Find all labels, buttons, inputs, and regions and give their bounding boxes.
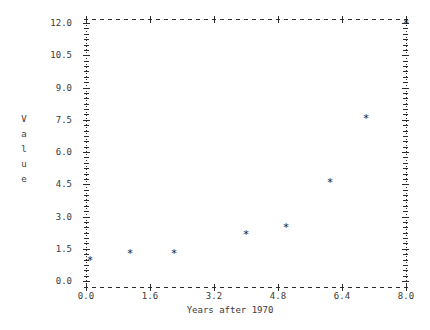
y-axis-minor-tick <box>84 211 89 212</box>
y-axis-major-tick <box>83 88 90 89</box>
y-axis-minor-tick <box>403 243 408 244</box>
y-axis-minor-tick <box>84 125 89 126</box>
y-axis-minor-tick <box>84 141 89 142</box>
y-axis-major-tick <box>83 281 90 282</box>
y-axis-minor-tick <box>84 179 89 180</box>
y-axis-minor-tick <box>403 260 408 261</box>
x-tick-label: 4.8 <box>258 292 298 301</box>
y-axis-minor-tick <box>84 163 89 164</box>
x-axis-major-tick <box>406 284 407 291</box>
y-axis-minor-tick <box>84 238 89 239</box>
y-axis-minor-tick <box>84 109 89 110</box>
data-point: * <box>127 248 134 259</box>
y-axis-minor-tick <box>403 195 408 196</box>
y-axis-minor-tick <box>84 114 89 115</box>
y-axis-minor-tick <box>403 174 408 175</box>
y-tick-label: 7.5 <box>30 115 72 124</box>
top-border-dashed <box>84 19 408 20</box>
y-tick-label: 1.5 <box>30 244 72 253</box>
y-axis-minor-tick <box>84 206 89 207</box>
y-axis-minor-tick <box>403 163 408 164</box>
y-axis-minor-tick <box>403 179 408 180</box>
y-axis-major-tick <box>83 217 90 218</box>
x-axis-major-tick <box>214 284 215 291</box>
x-axis-major-tick <box>214 16 215 23</box>
y-axis-minor-tick <box>84 45 89 46</box>
y-axis-minor-tick <box>84 227 89 228</box>
y-axis-minor-tick <box>403 238 408 239</box>
y-tick-label: 0.0 <box>30 277 72 286</box>
x-tick-label: 6.4 <box>322 292 362 301</box>
y-axis-minor-tick <box>403 45 408 46</box>
x-axis-major-tick <box>278 16 279 23</box>
y-axis-minor-tick <box>84 195 89 196</box>
y-axis-minor-tick <box>84 104 89 105</box>
y-axis-major-tick <box>402 184 409 185</box>
y-axis-minor-tick <box>84 200 89 201</box>
y-axis-minor-tick <box>84 190 89 191</box>
data-point: * <box>87 254 94 265</box>
y-axis-major-tick <box>402 120 409 121</box>
y-axis-minor-tick <box>403 206 408 207</box>
y-axis-major-tick <box>83 152 90 153</box>
y-axis-minor-tick <box>403 200 408 201</box>
y-axis-minor-tick <box>403 71 408 72</box>
y-tick-label: 3.0 <box>30 212 72 221</box>
y-axis-minor-tick <box>403 104 408 105</box>
x-axis-major-tick <box>342 284 343 291</box>
y-axis-major-tick <box>83 249 90 250</box>
y-tick-label: 4.5 <box>30 180 72 189</box>
y-axis-minor-tick <box>403 211 408 212</box>
y-axis-minor-tick <box>403 147 408 148</box>
y-axis-minor-tick <box>84 174 89 175</box>
y-axis-major-tick <box>402 88 409 89</box>
y-axis-minor-tick <box>84 93 89 94</box>
y-axis-title-char: a <box>16 127 32 142</box>
data-point: * <box>283 222 290 233</box>
data-point: * <box>363 112 370 123</box>
y-axis-minor-tick <box>84 28 89 29</box>
y-axis-minor-tick <box>403 93 408 94</box>
x-axis-major-tick <box>86 16 87 23</box>
x-axis-title: Years after 1970 <box>0 305 430 315</box>
y-axis-major-tick <box>83 184 90 185</box>
data-point: * <box>327 177 334 188</box>
y-axis-minor-tick <box>84 168 89 169</box>
y-axis-major-tick <box>402 55 409 56</box>
x-axis-major-tick <box>150 16 151 23</box>
y-axis-minor-tick <box>403 233 408 234</box>
y-axis-minor-tick <box>403 114 408 115</box>
y-axis-major-tick <box>83 120 90 121</box>
y-axis-minor-tick <box>403 157 408 158</box>
y-axis-major-tick <box>83 23 90 24</box>
y-axis-minor-tick <box>403 222 408 223</box>
y-axis-minor-tick <box>84 270 89 271</box>
y-axis-minor-tick <box>84 71 89 72</box>
y-axis-minor-tick <box>403 265 408 266</box>
y-axis-minor-tick <box>84 98 89 99</box>
y-axis-minor-tick <box>403 254 408 255</box>
y-axis-minor-tick <box>403 66 408 67</box>
y-axis-minor-tick <box>403 270 408 271</box>
y-axis-minor-tick <box>403 34 408 35</box>
y-axis-minor-tick <box>403 168 408 169</box>
y-tick-label: 9.0 <box>30 83 72 92</box>
y-axis-minor-tick <box>403 136 408 137</box>
y-axis-minor-tick <box>84 157 89 158</box>
y-axis-minor-tick <box>84 82 89 83</box>
y-axis-major-tick <box>83 55 90 56</box>
y-axis-minor-tick <box>84 147 89 148</box>
data-point: * <box>243 228 250 239</box>
x-axis-major-tick <box>86 284 87 291</box>
y-axis-minor-tick <box>403 109 408 110</box>
y-axis-minor-tick <box>403 39 408 40</box>
y-axis-minor-tick <box>403 190 408 191</box>
data-point: * <box>403 18 410 29</box>
y-axis-minor-tick <box>84 136 89 137</box>
x-tick-label: 3.2 <box>194 292 234 301</box>
y-axis-minor-tick <box>84 233 89 234</box>
y-axis-minor-tick <box>403 276 408 277</box>
y-axis-major-tick <box>402 152 409 153</box>
y-axis-minor-tick <box>84 276 89 277</box>
y-axis-minor-tick <box>84 77 89 78</box>
